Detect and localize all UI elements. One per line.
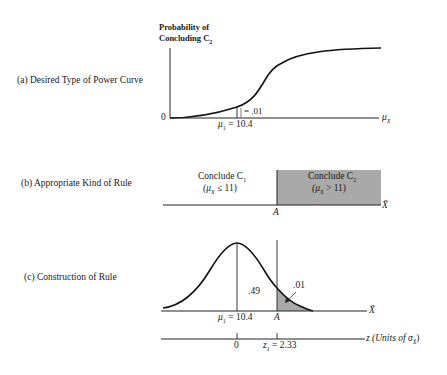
c2-sub: 2 <box>353 177 356 183</box>
y-axis-label-text: Concluding C <box>159 33 209 43</box>
panel-a-label: (a) Desired Type of Power Curve <box>17 75 143 85</box>
z1-value: = 2.33 <box>270 340 297 350</box>
tail-area-shade <box>277 288 313 311</box>
x-axis-label-mu-x: μX <box>382 112 390 124</box>
y-axis-label-line2: Concluding C2 <box>159 33 212 45</box>
y-axis-label-sub: 2 <box>209 39 212 45</box>
cutoff-a-label-b: A <box>273 207 279 217</box>
conclude-c1-title: Conclude C1 <box>198 171 246 183</box>
tail-area-label: .01 <box>293 280 305 290</box>
conclude-c2-title: Conclude C2 <box>308 171 356 183</box>
tail-arrow <box>287 292 296 301</box>
power-curve <box>170 48 381 118</box>
c1-sub: 1 <box>243 177 246 183</box>
cutoff-a-label-c: A <box>274 312 280 322</box>
z-axis-end: ) <box>416 333 419 343</box>
panel-b-label: (b) Appropriate Kind of Rule <box>21 178 132 188</box>
mean-label: μ1 = 10.4 <box>218 312 253 324</box>
alpha-annotation: = .01 <box>244 106 263 116</box>
x-sub: X <box>387 118 391 124</box>
xbar-label-b: X̄ <box>382 200 388 210</box>
c1-cond-mu: (μ <box>203 183 211 193</box>
power-curve-panel <box>170 48 381 118</box>
normal-curve <box>163 243 313 311</box>
origin-label: 0 <box>161 112 166 122</box>
mean-value: = 10.4 <box>226 312 253 322</box>
z-axis-text: z (Units of σ <box>366 333 413 343</box>
z-zero-label: 0 <box>234 340 239 350</box>
z-axis-label: z (Units of σX̄) <box>366 333 420 345</box>
panel-c-label: (c) Construction of Rule <box>24 272 117 282</box>
z-cutoff-label: z1 = 2.33 <box>263 340 296 352</box>
xbar-label-c: X̄ <box>369 305 375 315</box>
c2-title-text: Conclude C <box>308 171 353 181</box>
center-area-label: .49 <box>248 286 260 296</box>
conclude-c2-condition: (μX > 11) <box>312 183 346 195</box>
mu1-label: μ1 = 10.4 <box>218 119 253 131</box>
c1-title-text: Conclude C <box>198 171 243 181</box>
construction-panel <box>161 240 367 339</box>
mu1-value: = 10.4 <box>226 119 253 129</box>
c2-cond-mu: (μ <box>312 183 320 193</box>
conclude-c1-condition: (μX ≤ 11) <box>203 183 237 195</box>
y-axis-label-line1: Probability of <box>159 22 209 32</box>
c2-cond-rest: > 11) <box>324 183 346 193</box>
c1-cond-rest: ≤ 11) <box>215 183 237 193</box>
